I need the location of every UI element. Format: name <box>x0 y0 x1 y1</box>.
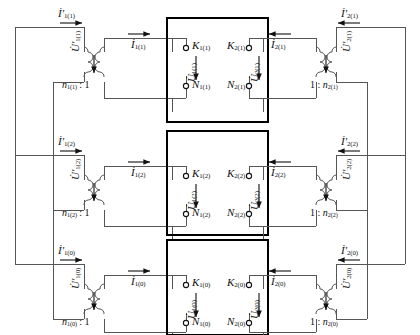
label-source-voltage-row2: U̇'1(2) <box>70 159 82 180</box>
terminal-n1-row2 <box>183 211 188 216</box>
label-source-voltage-right-row2: U̇'2(2) <box>341 159 353 180</box>
label-voltage-k2-row3: U̇2(0) <box>249 300 261 319</box>
label-k2-row3: K2(0) <box>227 277 245 289</box>
label-k1-row3: K1(0) <box>192 277 210 289</box>
terminal-k1-row1 <box>183 45 188 50</box>
label-sec-current-left-row3: İ1(0) <box>131 276 145 288</box>
label-k2-row2: K2(2) <box>227 168 245 180</box>
terminal-n1-row3 <box>183 320 188 325</box>
label-ratio-right-row1: 1 : n2(1) <box>310 80 338 90</box>
device-box-row2 <box>167 131 268 235</box>
terminal-n2-row3 <box>246 320 251 325</box>
label-ratio-left-row3: n1(0) : 1 <box>62 317 90 327</box>
terminal-k2-row1 <box>246 45 251 50</box>
circuit-diagram: İ'1(1) U̇'1(1) n1(1) : 1 İ1(1) K1(1) N… <box>0 0 420 335</box>
label-n2-row3: N2(0) <box>227 316 245 328</box>
label-k1-row1: K1(1) <box>192 40 210 52</box>
label-source-current-right-row2: İ'2(2) <box>341 136 358 148</box>
label-voltage-k2-row1: U̇2(1) <box>249 63 261 82</box>
label-k1-row2: K1(2) <box>192 168 210 180</box>
terminal-k1-row2 <box>183 173 188 178</box>
terminal-n2-row1 <box>246 83 251 88</box>
label-voltage-k1-row3: U̇1(0) <box>186 300 198 319</box>
label-n2-row2: N2(2) <box>227 207 245 219</box>
label-source-voltage-right-row1: U̇'2(1) <box>341 31 353 52</box>
terminal-n1-row1 <box>183 83 188 88</box>
terminal-k2-row3 <box>246 282 251 287</box>
label-source-voltage-right-row3: U̇'2(0) <box>341 268 353 289</box>
label-source-current-row2: İ'1(2) <box>58 136 75 148</box>
label-source-current-row3: İ'1(0) <box>58 245 75 257</box>
label-source-current-right-row3: İ'2(0) <box>341 245 358 257</box>
label-source-voltage-row1: U̇'1(1) <box>70 31 82 52</box>
terminal-k2-row2 <box>246 173 251 178</box>
terminal-n2-row2 <box>246 211 251 216</box>
label-sec-current-right-row2: İ2(2) <box>271 167 285 179</box>
label-sec-current-right-row1: İ2(1) <box>271 39 285 51</box>
label-source-current-row1: İ'1(1) <box>58 8 75 20</box>
label-ratio-right-row2: 1 : n2(2) <box>310 208 338 218</box>
label-sec-current-right-row3: İ2(0) <box>271 276 285 288</box>
label-voltage-k1-row2: U̇1(2) <box>186 191 198 210</box>
label-sec-current-left-row1: İ1(1) <box>131 39 145 51</box>
label-sec-current-left-row2: İ1(2) <box>131 167 145 179</box>
label-source-voltage-row3: U̇'1(0) <box>70 268 82 289</box>
device-box-row3 <box>167 240 268 335</box>
label-voltage-k2-row2: U̇2(2) <box>249 191 261 210</box>
label-ratio-left-row1: n1(1) : 1 <box>62 80 90 90</box>
label-k2-row1: K2(1) <box>227 40 245 52</box>
label-ratio-right-row3: 1 : n2(0) <box>310 317 338 327</box>
label-ratio-left-row2: n1(2) : 1 <box>62 208 90 218</box>
label-n2-row1: N2(1) <box>227 79 245 91</box>
terminal-k1-row3 <box>183 282 188 287</box>
label-source-current-right-row1: İ'2(1) <box>341 8 358 20</box>
label-voltage-k1-row1: U̇1(1) <box>186 63 198 82</box>
